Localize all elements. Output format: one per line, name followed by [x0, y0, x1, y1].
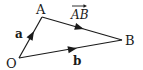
point-label-b: B: [125, 33, 135, 48]
arrowhead-ab-icon: [74, 23, 85, 32]
arrowhead-oa-icon: [26, 29, 37, 40]
vector-triangle-diagram: O A B a b AB: [0, 0, 143, 70]
arrowhead-ob-icon: [67, 45, 77, 53]
point-label-a: A: [35, 2, 46, 17]
vector-label-ab: AB: [70, 8, 89, 22]
vector-label-b: b: [73, 54, 81, 68]
point-label-o: O: [6, 56, 17, 70]
vector-label-a: a: [15, 27, 23, 41]
